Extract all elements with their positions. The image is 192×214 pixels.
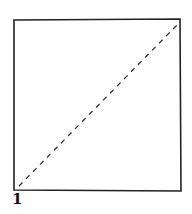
square-outline bbox=[14, 19, 181, 191]
diagram-figure bbox=[0, 0, 192, 214]
diagonal-dashed-line bbox=[19, 24, 178, 186]
figure-label: 1 bbox=[12, 190, 22, 208]
